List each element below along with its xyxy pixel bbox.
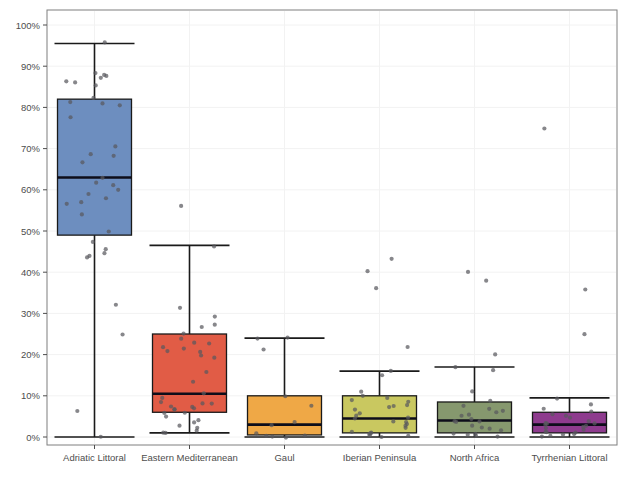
data-point: [261, 347, 265, 351]
y-tick-label: 40%: [21, 267, 41, 278]
data-point: [169, 404, 173, 408]
data-point: [86, 192, 90, 196]
data-point: [254, 431, 258, 435]
data-point: [491, 368, 495, 372]
data-point: [178, 306, 182, 310]
data-point: [501, 409, 505, 413]
x-tick-label-gaul: Gaul: [274, 452, 294, 463]
data-point: [459, 414, 463, 418]
data-point: [406, 415, 410, 419]
y-tick-label: 60%: [21, 184, 41, 195]
data-point: [100, 176, 104, 180]
y-tick-label: 20%: [21, 349, 41, 360]
data-point: [544, 426, 548, 430]
data-point: [192, 420, 196, 424]
data-point: [104, 196, 108, 200]
data-point: [495, 435, 499, 439]
data-point: [488, 427, 492, 431]
data-point: [406, 434, 410, 438]
data-point: [181, 331, 185, 335]
data-point: [91, 96, 95, 100]
data-point: [196, 418, 200, 422]
data-point: [80, 160, 84, 164]
data-point: [467, 413, 471, 417]
data-point: [85, 255, 89, 259]
data-point: [470, 424, 474, 428]
y-axis: 0%10%20%30%40%50%60%70%80%90%100%: [16, 20, 47, 443]
data-point: [365, 269, 369, 273]
data-point: [548, 434, 552, 438]
data-point: [163, 431, 167, 435]
data-point: [118, 103, 122, 107]
data-point: [75, 409, 79, 413]
data-point: [65, 202, 69, 206]
data-point: [94, 83, 98, 87]
data-point: [350, 430, 354, 434]
data-point: [79, 200, 83, 204]
data-point: [179, 337, 183, 341]
data-point: [162, 411, 166, 415]
data-point: [99, 76, 103, 80]
data-point: [453, 365, 457, 369]
data-point: [80, 212, 84, 216]
data-point: [283, 394, 287, 398]
data-point: [405, 403, 409, 407]
data-point: [198, 350, 202, 354]
data-point: [454, 420, 458, 424]
data-point: [406, 345, 410, 349]
data-point: [207, 341, 211, 345]
data-point: [466, 270, 470, 274]
data-point: [161, 345, 165, 349]
data-point: [353, 407, 357, 411]
data-point: [200, 401, 204, 405]
data-point: [368, 433, 372, 437]
data-point: [390, 257, 394, 261]
x-tick-label-eastern-mediterranean: Eastern Mediterranean: [141, 452, 238, 463]
y-tick-label: 70%: [21, 143, 41, 154]
data-point: [204, 370, 208, 374]
box-body: [248, 396, 322, 435]
data-point: [487, 407, 491, 411]
x-tick-label-north-africa: North Africa: [450, 452, 500, 463]
data-point: [561, 433, 565, 437]
x-axis: Adriatic LittoralEastern MediterraneanGa…: [63, 445, 607, 463]
data-point: [589, 409, 593, 413]
data-point: [587, 419, 591, 423]
data-point: [583, 287, 587, 291]
data-point: [68, 100, 72, 104]
data-point: [389, 369, 393, 373]
data-point: [555, 397, 559, 401]
boxplot-figure: 0%10%20%30%40%50%60%70%80%90%100% Adriat…: [0, 0, 626, 490]
y-tick-label: 30%: [21, 308, 41, 319]
data-point: [484, 279, 488, 283]
data-point: [544, 430, 548, 434]
data-point: [542, 407, 546, 411]
data-point: [387, 405, 391, 409]
data-point: [112, 154, 116, 158]
data-point: [572, 432, 576, 436]
data-point: [164, 414, 168, 418]
data-point: [102, 73, 106, 77]
data-point: [293, 420, 297, 424]
data-point: [592, 421, 596, 425]
data-point: [91, 240, 95, 244]
data-point: [470, 389, 474, 393]
data-point: [179, 204, 183, 208]
data-point: [589, 402, 593, 406]
data-point: [200, 325, 204, 329]
data-point: [285, 336, 289, 340]
data-point: [120, 332, 124, 336]
data-point: [361, 394, 365, 398]
box-body: [58, 99, 132, 235]
data-point: [374, 286, 378, 290]
data-point: [477, 419, 481, 423]
data-point: [499, 428, 503, 432]
data-point: [165, 349, 169, 353]
data-point: [182, 346, 186, 350]
data-point: [160, 396, 164, 400]
data-point: [461, 404, 465, 408]
plot-panel: [47, 10, 617, 445]
data-point: [199, 353, 203, 357]
data-point: [177, 424, 181, 428]
data-point: [493, 352, 497, 356]
